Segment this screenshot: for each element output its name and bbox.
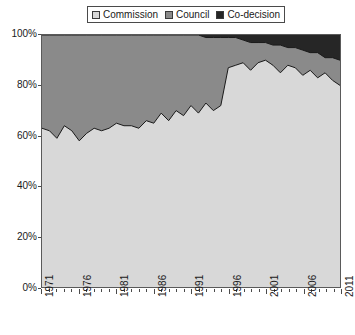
x-tick-mark xyxy=(146,289,147,292)
x-tick-mark xyxy=(41,289,42,294)
x-tick-mark xyxy=(169,289,170,292)
x-tick-label: 2001 xyxy=(270,275,280,297)
x-tick-mark xyxy=(94,289,95,292)
x-tick-mark xyxy=(221,289,222,292)
x-tick-mark xyxy=(154,289,155,294)
x-tick-label: 1976 xyxy=(83,275,93,297)
x-tick-mark xyxy=(341,289,342,294)
x-tick-label: 1971 xyxy=(45,275,55,297)
x-tick-mark xyxy=(259,289,260,292)
x-tick-mark xyxy=(214,289,215,292)
x-tick-mark xyxy=(334,289,335,292)
x-tick-mark xyxy=(289,289,290,292)
x-tick-label: 1991 xyxy=(195,275,205,297)
x-tick-mark xyxy=(56,289,57,292)
x-tick-label: 1981 xyxy=(120,275,130,297)
x-tick-label: 1986 xyxy=(158,275,168,297)
x-tick-mark xyxy=(229,289,230,294)
x-tick-mark xyxy=(131,289,132,292)
x-tick-mark xyxy=(206,289,207,292)
x-tick-mark xyxy=(71,289,72,292)
x-tick-mark xyxy=(116,289,117,294)
x-tick-mark xyxy=(319,289,320,292)
x-tick-mark xyxy=(79,289,80,294)
x-tick-mark xyxy=(326,289,327,292)
x-tick-mark xyxy=(109,289,110,292)
x-tick-mark xyxy=(184,289,185,292)
x-tick-mark xyxy=(176,289,177,292)
x-tick-mark xyxy=(266,289,267,294)
x-tick-label: 1996 xyxy=(233,275,243,297)
x-tick-mark xyxy=(244,289,245,292)
x-tick-mark xyxy=(281,289,282,292)
x-tick-label: 2006 xyxy=(308,275,318,297)
x-tick-mark xyxy=(191,289,192,294)
x-tick-mark xyxy=(101,289,102,292)
x-tick-mark xyxy=(296,289,297,292)
x-tick-mark xyxy=(304,289,305,294)
x-tick-mark xyxy=(139,289,140,292)
x-tick-label: 2011 xyxy=(345,275,355,297)
x-tick-mark xyxy=(251,289,252,292)
x-tick-mark xyxy=(64,289,65,292)
